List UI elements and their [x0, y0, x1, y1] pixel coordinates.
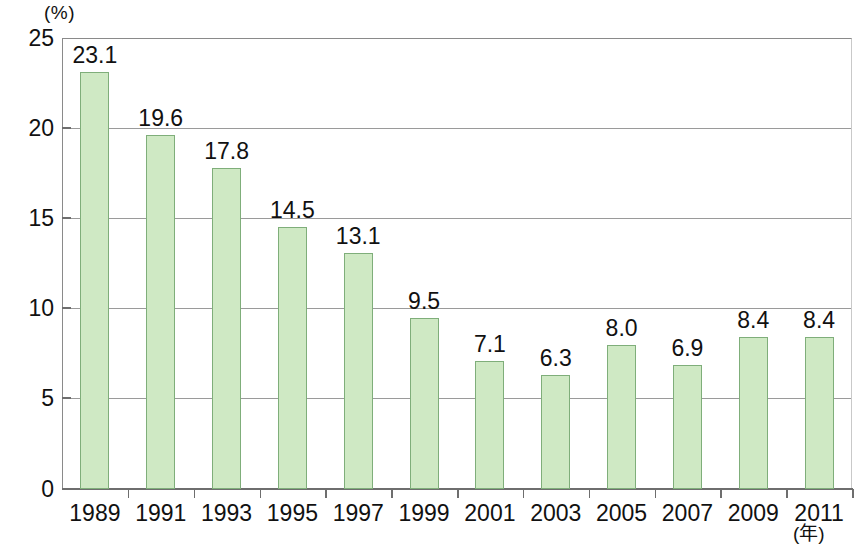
- x-axis-label-2003: 2003: [530, 500, 581, 527]
- bar-1993: [212, 168, 241, 489]
- bar-2005: [607, 345, 636, 489]
- x-axis-label-1999: 1999: [398, 500, 449, 527]
- x-axis-label-1997: 1997: [333, 500, 384, 527]
- bar-value-label-1995: 14.5: [270, 197, 315, 224]
- x-tick-mark-3: [325, 489, 327, 498]
- bar-value-label-2011: 8.4: [803, 307, 835, 334]
- x-tick-mark-9: [720, 489, 722, 498]
- bars-layer: [0, 0, 865, 490]
- x-tick-mark-10: [786, 489, 788, 498]
- x-tick-mark-7: [589, 489, 591, 498]
- x-tick-mark-8: [655, 489, 657, 498]
- x-axis-label-2001: 2001: [464, 500, 515, 527]
- bar-value-label-1997: 13.1: [336, 223, 381, 250]
- bar-value-label-2003: 6.3: [540, 345, 572, 372]
- bar-1991: [146, 135, 175, 489]
- bar-2011: [805, 337, 834, 489]
- bar-1995: [278, 227, 307, 489]
- bar-2009: [739, 337, 768, 489]
- bar-value-label-2009: 8.4: [737, 307, 769, 334]
- x-axis-label-1993: 1993: [201, 500, 252, 527]
- x-axis-label-1991: 1991: [135, 500, 186, 527]
- bar-value-label-1993: 17.8: [204, 138, 249, 165]
- x-axis-label-2005: 2005: [596, 500, 647, 527]
- bar-value-label-2007: 6.9: [671, 335, 703, 362]
- x-tick-mark-5: [457, 489, 459, 498]
- bar-value-label-2001: 7.1: [474, 331, 506, 358]
- x-axis-unit-label: (年): [793, 518, 825, 544]
- x-tick-mark-0: [128, 489, 130, 498]
- bar-2001: [475, 361, 504, 489]
- x-axis-label-1995: 1995: [267, 500, 318, 527]
- bar-1997: [344, 253, 373, 489]
- bar-chart: (%) 25 20 15 10 5 0 23.1198919.6199117.8…: [0, 0, 865, 544]
- x-tick-mark-6: [523, 489, 525, 498]
- bar-2007: [673, 365, 702, 489]
- x-axis-label-2007: 2007: [662, 500, 713, 527]
- x-tick-mark-11: [852, 489, 854, 498]
- bar-value-label-1989: 23.1: [73, 42, 118, 69]
- bar-2003: [541, 375, 570, 489]
- x-tick-mark-2: [260, 489, 262, 498]
- x-tick-mark-1: [194, 489, 196, 498]
- bar-value-label-2005: 8.0: [606, 315, 638, 342]
- bar-value-label-1991: 19.6: [138, 105, 183, 132]
- x-tick-mark-4: [391, 489, 393, 498]
- x-axis-label-2009: 2009: [728, 500, 779, 527]
- bar-1989: [80, 72, 109, 489]
- bar-1999: [410, 318, 439, 489]
- x-axis-label-1989: 1989: [69, 500, 120, 527]
- bar-value-label-1999: 9.5: [408, 288, 440, 315]
